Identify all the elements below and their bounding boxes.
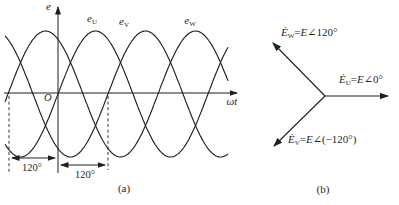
curve-label-eW-sub: W [189,20,196,28]
e-axis-label: e [46,0,51,12]
caption-b: (b) [317,183,330,195]
curve-label-eV-sub: V [124,21,129,29]
phasor-label-eU-magnitude: E [357,73,364,85]
interval-label-2: 120° [75,169,95,181]
phasor-label-eV-angle: ∠(−120°) [313,133,357,145]
phasor-label-eW-var: Ė [281,26,288,38]
diagram-canvas [0,0,399,205]
panel-b-phasor-diagram [273,43,388,146]
phasor-label-eU: ĖU=E∠0° [339,73,383,88]
phasor-label-eW-angle: ∠120° [307,26,337,38]
phasor-label-eV-magnitude: E [306,133,313,145]
caption-a: (a) [118,182,130,194]
curve-label-eW: eW [184,14,196,29]
phasor-label-eV: ĖV=E∠(−120°) [288,133,356,148]
phasor-label-eU-angle: ∠0° [364,73,383,85]
origin-label: O [44,92,52,104]
omega-t-axis-label: ωt [227,95,238,107]
figure: e eU eV eW O ωt 120° 120° (a) ĖW=E∠120° … [0,0,399,205]
interval-label-1: 120° [22,162,42,174]
curve-label-eU: eU [87,12,97,27]
curve-label-eV: eV [119,15,129,30]
panel-a-waveforms [4,7,237,173]
phasor-label-eU-var: Ė [339,73,346,85]
curve-eV [5,31,228,157]
phasor-label-eW: ĖW=E∠120° [281,26,337,41]
curve-eW [5,31,228,157]
curve-eU [5,31,228,157]
phasor-eW [273,43,325,96]
phasor-label-eV-var: Ė [288,133,295,145]
curve-label-eU-sub: U [92,18,97,26]
